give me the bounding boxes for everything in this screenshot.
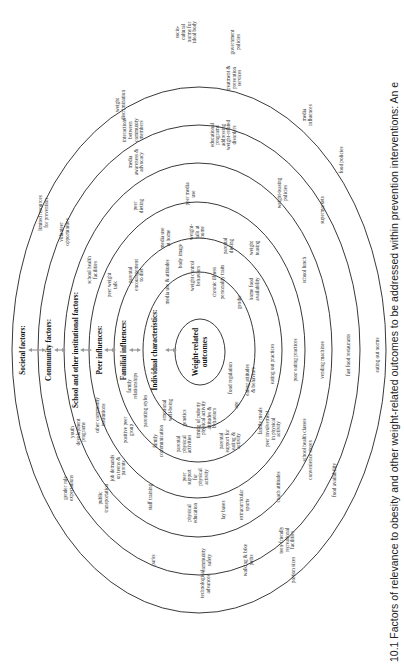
factor-label-line: poor eating practices: [292, 338, 298, 381]
factor-individual: age: [233, 401, 239, 409]
factor-label-line: institutions: [100, 403, 106, 426]
factor-label-line: school lunch: [301, 256, 307, 283]
heading-familial: Familial influences:: [120, 320, 128, 381]
factor-label-line: availability: [254, 277, 260, 301]
factor-familial: parentalsupport foreating &activity: [218, 429, 241, 452]
factor-community: parks: [150, 554, 156, 565]
factor-familial: parenting styles: [142, 395, 148, 428]
factor-label-line: parents: [120, 461, 126, 476]
factor-label-line: timing of puberty: [195, 401, 201, 438]
factor-school: extracurricularsports: [238, 489, 250, 520]
factor-label-line: activities: [186, 435, 192, 454]
factor-label-line: food regulation: [227, 362, 233, 394]
factor-label-line: media use & attitudes: [164, 259, 170, 304]
core-line-2: outcomes: [200, 337, 209, 367]
factor-label-line: ideal body: [191, 21, 197, 43]
factor-peer: peersupportforphysicalactivity: [181, 468, 209, 486]
factor-label-line: facilities: [92, 261, 98, 279]
factor-label-line: activity: [275, 421, 281, 437]
factor-label-line: school health classes: [301, 418, 307, 461]
factor-community: publictransportation: [97, 483, 109, 512]
heading-school: School and other institutional factors:: [72, 292, 80, 408]
factor-label-line: portion sizes: [290, 557, 296, 583]
factor-label-line: policies: [235, 34, 241, 50]
factor-societal: mediainfluences: [301, 104, 313, 125]
arrow-icon: [80, 348, 92, 352]
factor-community: communitysafety: [200, 548, 212, 572]
factor-familial: home foodavailability: [248, 277, 260, 301]
factor-familial: parentalphysicalactivities: [175, 435, 192, 454]
factor-label-line: family meals: [257, 408, 263, 435]
factor-peer: peer weighttalk: [106, 272, 118, 297]
factor-label-line: food availability: [331, 463, 337, 498]
factor-label-line: fast food restaurants: [345, 334, 351, 376]
factor-societal: governmentpolicies: [229, 29, 241, 54]
factor-label-line: convenience stores: [307, 440, 313, 479]
factor-individual: body image: [177, 243, 183, 268]
factor-label-line: gender: [236, 295, 242, 309]
factor-label-line: eating out norms: [374, 338, 380, 373]
factor-familial: parentaldieting: [222, 237, 234, 254]
factor-societal: weightdiscrimination: [114, 90, 126, 120]
factor-peer: peer involvementin physicalactivity: [264, 410, 281, 447]
factor-label-line: body image: [177, 243, 183, 268]
factor-school: school health classes: [301, 418, 307, 461]
factor-label-line: relationships: [132, 373, 138, 400]
factor-label-line: at home: [165, 229, 171, 246]
factor-familial: media useat home: [159, 227, 171, 249]
factor-individual: weight controlbehaviors: [189, 260, 201, 291]
factor-label-line: parks: [150, 554, 156, 565]
heading-community: Community factors:: [45, 319, 53, 381]
factor-label-line: policies: [282, 185, 288, 201]
factor-individual: gender: [236, 295, 242, 309]
factor-individual: timing of puberty: [195, 401, 201, 438]
factor-label-line: behaviors: [211, 408, 217, 428]
factor-community: supermarkets: [319, 196, 325, 224]
factor-community: vending machines: [319, 341, 325, 379]
factor-societal: portion sizes: [290, 557, 296, 583]
factor-community: interactionsbetweencommunitymembers: [121, 118, 144, 142]
factor-peer: weightteasing: [248, 240, 260, 255]
factor-familial: eating out practices: [269, 344, 275, 384]
factor-school: weight-teasingpolicies: [276, 177, 288, 208]
factor-school: other communityinstitutions: [94, 397, 106, 433]
factor-label-line: well-being: [167, 399, 173, 422]
factor-label-line: vending machines: [319, 341, 325, 379]
factor-label-line: lay bases: [220, 501, 226, 520]
factor-individual: genetics: [181, 410, 187, 427]
factor-school: educationalprogramsaddressingweight-rela…: [209, 120, 237, 150]
factor-label-line: talk: [112, 281, 118, 289]
factor-school: mediaawareness &advocacy: [127, 149, 144, 176]
factor-peer: peerdieting: [132, 198, 144, 213]
factor-label-line: genetics: [181, 410, 187, 427]
factor-familial: family meals: [257, 408, 263, 435]
factor-label-line: advocacy: [138, 152, 144, 172]
factor-label-line: programs: [80, 422, 86, 442]
factor-label-line: group: [128, 424, 134, 437]
factor-label-line: members: [138, 120, 144, 139]
factor-label-line: paths: [248, 555, 254, 566]
factor-community: teen-friendlyrecreationalfacilities: [278, 526, 295, 553]
factor-community: walking & bikepaths: [242, 543, 254, 576]
figure-caption: 10.1 Factors of relevance to obesity and…: [388, 82, 400, 662]
factor-societal: socio-culturalnorms forideal body: [174, 21, 197, 43]
factor-community: convenience stores: [307, 440, 313, 479]
factor-label-line: food policies: [338, 147, 344, 174]
factor-label-line: staff training: [147, 483, 153, 510]
factor-label-line: influences: [307, 104, 313, 125]
factor-label-line: activity: [203, 469, 209, 485]
factor-peer: poor eating practices: [292, 338, 298, 381]
factor-familial: familycommunication: [152, 424, 164, 457]
factor-societal: technologicaladvances: [199, 569, 211, 598]
figure: Societal factors: Community factors: Sch…: [0, 0, 404, 664]
arrow-icon: [28, 348, 46, 352]
factor-label-line: supermarkets: [319, 196, 325, 224]
factor-label-line: behaviors: [195, 266, 201, 286]
factor-label-line: home: [199, 226, 205, 238]
factor-societal: limited resourcesfor prevention: [37, 195, 49, 231]
factor-label-line: education: [192, 503, 198, 524]
factor-label-line: services: [236, 70, 242, 87]
factor-societal: food policies: [338, 147, 344, 174]
factor-label-line: communication: [158, 424, 164, 457]
factor-community: youthdevelopmentprograms: [69, 418, 86, 445]
